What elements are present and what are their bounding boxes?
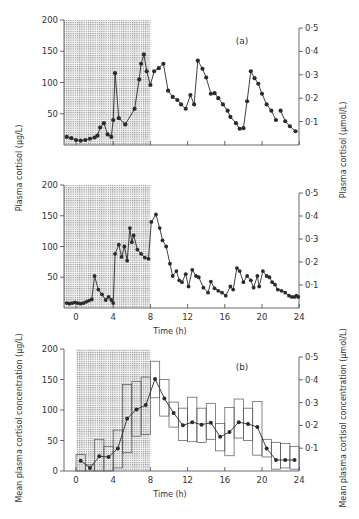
data-point — [220, 291, 224, 295]
data-point — [132, 234, 136, 238]
data-point — [175, 98, 179, 102]
data-point — [252, 286, 256, 290]
data-point — [296, 295, 300, 299]
data-point — [261, 269, 265, 273]
x-tick-label: 8 — [148, 312, 153, 322]
night-shade-region — [64, 185, 150, 308]
right-tick-label: 0·1 — [305, 280, 319, 290]
data-point — [104, 298, 108, 302]
data-point — [123, 122, 127, 126]
data-point — [142, 52, 146, 56]
data-point — [153, 377, 157, 381]
range-box — [281, 444, 290, 468]
data-point — [274, 118, 278, 122]
data-point — [74, 138, 78, 142]
data-point — [171, 274, 175, 278]
data-point — [157, 66, 161, 70]
right-tick-label: 0·2 — [305, 257, 319, 267]
data-point — [158, 226, 162, 230]
left-tick-label: 50 — [47, 109, 58, 119]
right-tick-label: 0·4 — [305, 46, 319, 56]
data-point — [209, 280, 213, 284]
data-point — [256, 82, 260, 86]
right-tick-label: 0·3 — [305, 234, 319, 244]
data-point — [120, 255, 124, 259]
data-point — [255, 274, 259, 278]
data-point — [125, 417, 129, 421]
data-point — [269, 109, 273, 113]
data-point — [274, 458, 278, 462]
x-axis-title: Time (h) — [152, 490, 186, 499]
data-point — [172, 411, 176, 415]
data-point — [130, 240, 134, 244]
data-point — [204, 75, 208, 79]
x-tick-label: 12 — [182, 312, 193, 322]
data-point — [255, 425, 259, 429]
data-point — [122, 245, 126, 249]
right-tick-label: 0·5 — [305, 23, 319, 33]
cortisol-figure: 501001502000·10·20·30·40·5(a)50100150200… — [0, 0, 359, 519]
data-point — [273, 283, 277, 287]
left-tick-label: 200 — [42, 180, 58, 190]
right-tick-label: 0·4 — [305, 375, 319, 385]
night-shading — [64, 20, 150, 471]
data-point — [283, 458, 287, 462]
data-point — [283, 119, 287, 123]
data-point — [257, 285, 261, 289]
data-point — [147, 257, 151, 261]
data-point — [213, 286, 217, 290]
left-tick-label: 0 — [53, 466, 58, 476]
data-point — [265, 446, 269, 450]
data-point — [192, 102, 196, 106]
data-point — [184, 272, 188, 276]
data-point — [202, 286, 206, 290]
left-tick-label: 200 — [42, 344, 58, 354]
data-point — [279, 109, 283, 113]
right-tick-label: 0·1 — [305, 443, 319, 453]
data-point — [139, 62, 143, 66]
data-point — [245, 99, 249, 103]
data-point — [102, 121, 106, 125]
data-point — [181, 423, 185, 427]
data-point — [100, 293, 104, 297]
right-tick-label: 0·1 — [305, 117, 319, 127]
data-point — [168, 262, 172, 266]
x-tick-label: 4 — [110, 312, 115, 322]
data-point — [242, 280, 246, 284]
data-point — [111, 118, 115, 122]
data-point — [143, 256, 147, 260]
left-tick-label: 100 — [42, 78, 58, 88]
data-point — [135, 248, 139, 252]
data-point — [164, 245, 168, 249]
x-tick-label: 24 — [294, 312, 305, 322]
data-point — [148, 83, 152, 87]
x-tick-label: 0 — [73, 475, 78, 485]
data-point — [260, 92, 264, 96]
data-point — [190, 268, 194, 272]
data-point — [200, 67, 204, 71]
data-point — [69, 136, 73, 140]
data-point — [175, 269, 179, 273]
data-point — [113, 252, 117, 256]
data-point — [283, 291, 287, 295]
data-point — [209, 92, 213, 96]
x-tick-label: 16 — [219, 475, 230, 485]
panel-label: (b) — [236, 362, 249, 372]
range-box — [234, 399, 243, 438]
data-point — [246, 422, 250, 426]
data-point — [88, 137, 92, 141]
data-point — [137, 77, 141, 81]
data-point — [241, 126, 245, 130]
left-tick-label: 50 — [47, 272, 58, 282]
data-point — [238, 269, 242, 273]
left-tick-label: 200 — [42, 15, 58, 25]
data-point — [65, 135, 69, 139]
data-point — [280, 289, 284, 293]
data-point — [88, 466, 92, 470]
right-tick-label: 0·4 — [305, 211, 319, 221]
y-axis-title-left: Plasma cortisol (µg/L) — [15, 125, 24, 212]
data-point — [152, 69, 156, 73]
x-tick-label: 8 — [148, 475, 153, 485]
right-tick-label: 0·5 — [305, 352, 319, 362]
data-point — [125, 259, 129, 263]
